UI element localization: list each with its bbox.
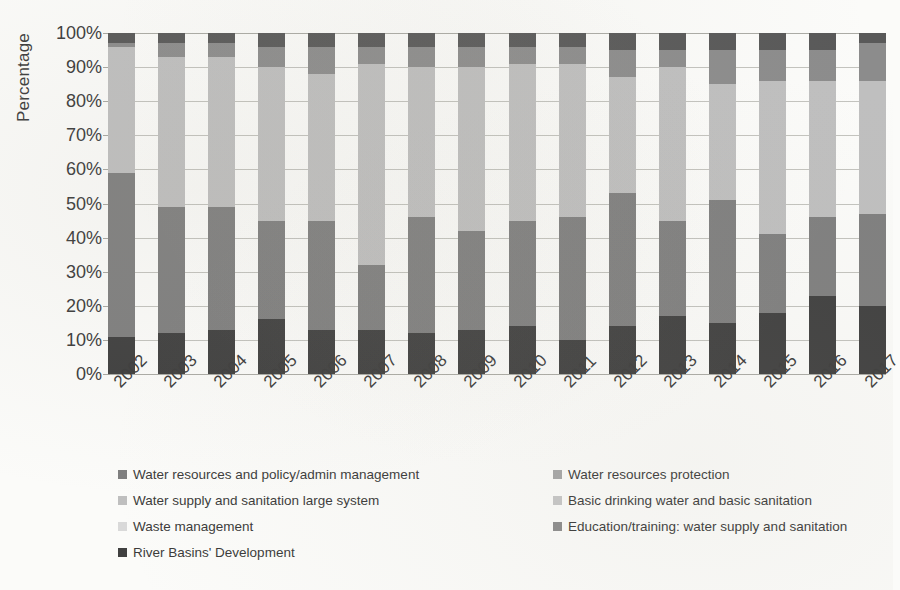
legend-item[interactable]: Water resources and policy/admin managem… [118,468,419,482]
x-axis-tick-labels: 2002200320042005200620072008200920102011… [108,378,886,448]
legend-item[interactable]: Water resources protection [553,468,730,482]
bar-segment[interactable] [158,57,185,207]
bar-segment[interactable] [509,64,536,221]
bar-column[interactable] [659,33,686,374]
bar-column[interactable] [458,33,485,374]
bar-column[interactable] [759,33,786,374]
legend-item[interactable]: Education/training: water supply and san… [553,520,847,534]
bar-segment[interactable] [759,50,786,81]
bar-segment[interactable] [509,33,536,47]
bar-segment[interactable] [158,33,185,43]
bar-segment[interactable] [408,33,435,47]
bar-segment[interactable] [458,33,485,47]
bar-segment[interactable] [308,47,335,74]
bar-segment[interactable] [208,33,235,43]
bar-segment[interactable] [408,47,435,67]
bar-segment[interactable] [709,200,736,323]
bar-segment[interactable] [308,33,335,47]
bar-segment[interactable] [258,221,285,320]
bar-column[interactable] [408,33,435,374]
bar-segment[interactable] [609,33,636,50]
bar-column[interactable] [809,33,836,374]
bar-column[interactable] [609,33,636,374]
bar-column[interactable] [559,33,586,374]
bar-segment[interactable] [208,207,235,330]
bar-segment[interactable] [559,47,586,64]
bar-segment[interactable] [308,221,335,330]
bar-segment[interactable] [509,221,536,327]
bar-segment[interactable] [208,43,235,57]
bar-segment[interactable] [108,47,135,173]
bar-segment[interactable] [258,47,285,67]
legend-swatch-icon [553,496,562,505]
bar-column[interactable] [158,33,185,374]
bar-segment[interactable] [158,207,185,333]
bar-segment[interactable] [559,33,586,47]
plot-area [108,33,886,374]
y-axis-tick-label: 20% [66,295,102,316]
bar-segment[interactable] [759,234,786,312]
bar-column[interactable] [208,33,235,374]
bar-segment[interactable] [358,33,385,47]
bar-segment[interactable] [709,33,736,50]
bar-column[interactable] [709,33,736,374]
bar-segment[interactable] [709,50,736,84]
y-axis-tick-label: 10% [66,329,102,350]
bar-segment[interactable] [809,217,836,295]
bar-column[interactable] [358,33,385,374]
bar-segment[interactable] [559,64,586,217]
bar-segment[interactable] [609,193,636,326]
bar-segment[interactable] [458,231,485,330]
bar-segment[interactable] [859,33,886,43]
legend-swatch-icon [553,470,562,479]
bar-segment[interactable] [609,50,636,77]
bar-segment[interactable] [358,265,385,330]
bar-segment[interactable] [809,81,836,217]
bar-segment[interactable] [659,50,686,67]
legend-item[interactable]: River Basins' Development [118,546,295,560]
bar-segment[interactable] [308,74,335,221]
bar-segment[interactable] [358,64,385,265]
bar-segment[interactable] [358,47,385,64]
bar-segment[interactable] [609,77,636,193]
bar-segment[interactable] [859,81,886,214]
legend-item-label: River Basins' Development [133,546,295,560]
bar-segment[interactable] [258,67,285,220]
bar-column[interactable] [859,33,886,374]
bar-segment[interactable] [809,33,836,50]
bar-segment[interactable] [859,43,886,81]
bar-segment[interactable] [208,57,235,207]
bar-segment[interactable] [158,43,185,57]
legend-item[interactable]: Basic drinking water and basic sanitatio… [553,494,812,508]
bar-segment[interactable] [458,47,485,67]
bar-segment[interactable] [458,67,485,231]
bar-column[interactable] [308,33,335,374]
bar-segment[interactable] [509,47,536,64]
bar-segment[interactable] [108,173,135,337]
bar-column[interactable] [108,33,135,374]
y-axis-tick-label: 80% [66,91,102,112]
legend-item[interactable]: Water supply and sanitation large system [118,494,379,508]
bar-segment[interactable] [809,50,836,81]
bar-segment[interactable] [659,33,686,50]
bar-segment[interactable] [408,217,435,333]
bar-column[interactable] [258,33,285,374]
bar-segment[interactable] [659,67,686,220]
bar-segment[interactable] [408,67,435,217]
bar-segment[interactable] [659,221,686,316]
bar-segment[interactable] [859,214,886,306]
bar-segment[interactable] [759,81,786,234]
bar-series-container [108,33,886,374]
bar-segment[interactable] [108,33,135,43]
bar-column[interactable] [509,33,536,374]
bar-segment[interactable] [559,217,586,340]
legend-swatch-icon [118,496,127,505]
bar-segment[interactable] [258,33,285,47]
bar-segment[interactable] [709,84,736,200]
y-axis-tick-label: 30% [66,261,102,282]
bar-segment[interactable] [759,33,786,50]
y-axis-tick-label: 50% [66,193,102,214]
legend-item[interactable]: Waste management [118,520,253,534]
legend-item-label: Waste management [133,520,253,534]
